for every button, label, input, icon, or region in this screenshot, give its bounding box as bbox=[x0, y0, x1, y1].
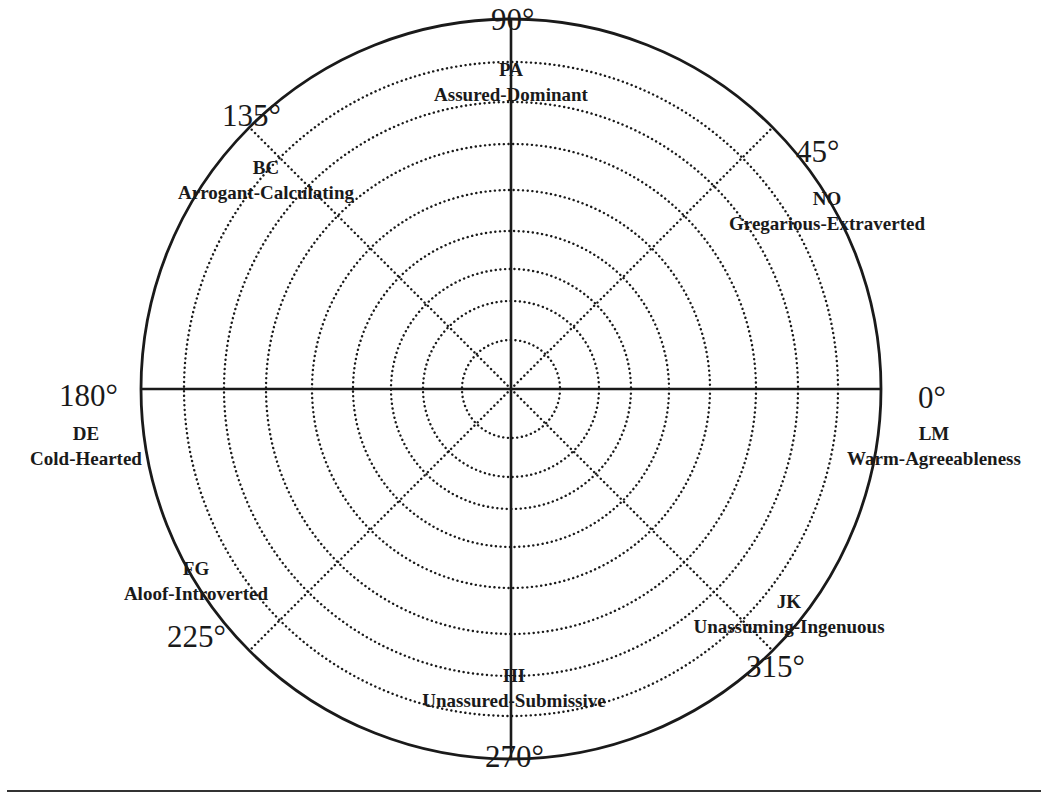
octant-code: JK bbox=[693, 589, 884, 614]
octant-code: FG bbox=[124, 556, 268, 581]
octant-name: Unassured-Submissive bbox=[422, 688, 605, 713]
octant-code: LM bbox=[847, 421, 1021, 446]
deg-180-label: 180° bbox=[59, 380, 118, 411]
octant-name: Unassuming-Ingenuous bbox=[693, 614, 884, 639]
deg-270-label: 270° bbox=[485, 741, 544, 772]
deg-45-label: 45° bbox=[796, 136, 839, 167]
octant-name: Gregarious-Extraverted bbox=[729, 211, 925, 236]
octant-de: DECold-Hearted bbox=[30, 421, 142, 471]
octant-code: DE bbox=[30, 421, 142, 446]
deg-0-label: 0° bbox=[918, 382, 946, 413]
circumplex-diagram: 0°45°90°135°180°225°270°315°PAAssured-Do… bbox=[0, 0, 1055, 801]
axis-225-dotted bbox=[249, 389, 511, 651]
octant-code: NO bbox=[729, 186, 925, 211]
octant-name: Cold-Hearted bbox=[30, 446, 142, 471]
octant-code: HI bbox=[422, 663, 605, 688]
octant-no: NOGregarious-Extraverted bbox=[729, 186, 925, 236]
deg-315-label: 315° bbox=[746, 651, 805, 682]
octant-lm: LMWarm-Agreeableness bbox=[847, 421, 1021, 471]
octant-jk: JKUnassuming-Ingenuous bbox=[693, 589, 884, 639]
octant-bc: BCArrogant-Calculating bbox=[178, 155, 354, 205]
octant-hi: HIUnassured-Submissive bbox=[422, 663, 605, 713]
deg-225-label: 225° bbox=[167, 621, 226, 652]
octant-name: Arrogant-Calculating bbox=[178, 180, 354, 205]
axis-45-dotted bbox=[511, 127, 773, 389]
octant-pa: PAAssured-Dominant bbox=[434, 57, 588, 107]
octant-code: BC bbox=[178, 155, 354, 180]
deg-90-label: 90° bbox=[491, 4, 534, 35]
octant-fg: FGAloof-Introverted bbox=[124, 556, 268, 606]
octant-name: Warm-Agreeableness bbox=[847, 446, 1021, 471]
octant-name: Aloof-Introverted bbox=[124, 581, 268, 606]
octant-code: PA bbox=[434, 57, 588, 82]
bottom-rule-divider bbox=[7, 790, 1041, 792]
octant-name: Assured-Dominant bbox=[434, 82, 588, 107]
deg-135-label: 135° bbox=[222, 100, 281, 131]
